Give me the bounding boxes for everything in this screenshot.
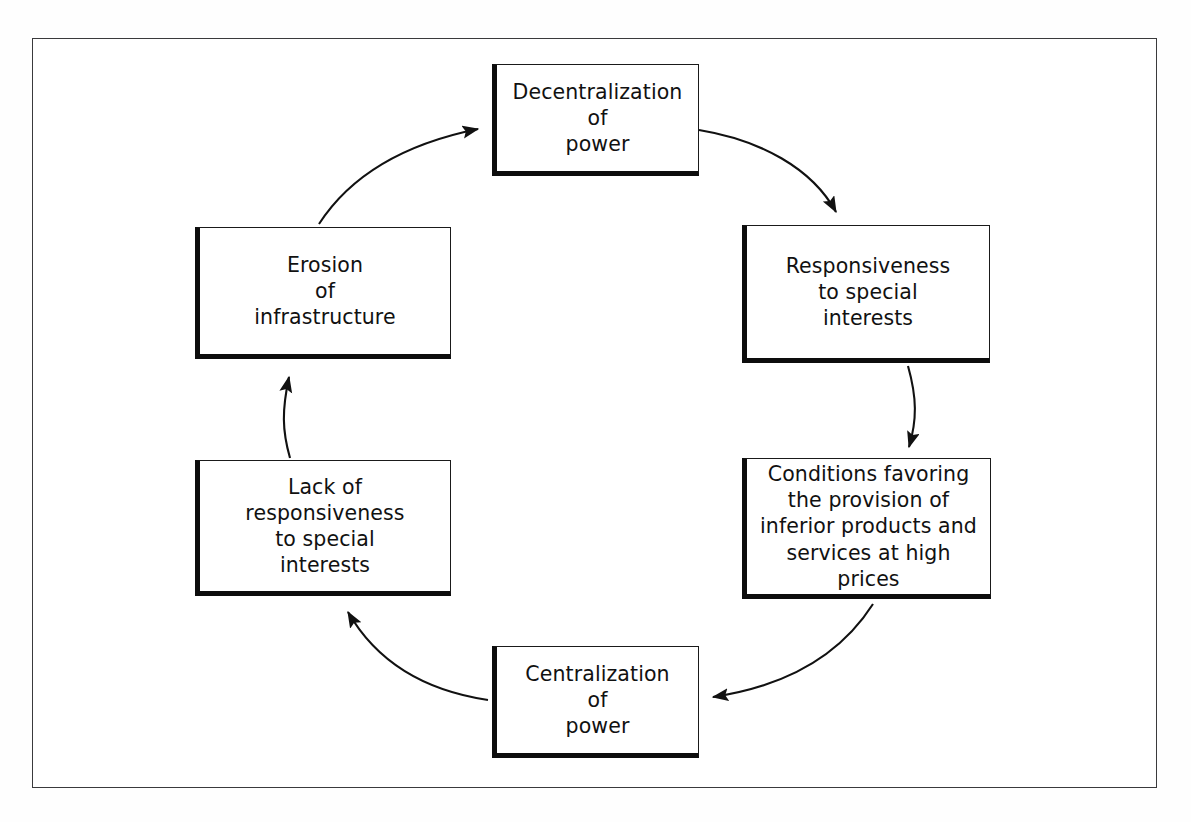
node-decentralization-of-power[interactable]: Decentralizationofpower bbox=[492, 64, 699, 176]
node-conditions-label: Conditions favoringthe provision ofinfer… bbox=[747, 461, 990, 592]
node-lack-label: Lack ofresponsivenessto specialinterests bbox=[239, 474, 410, 579]
node-decentralization-label: Decentralizationofpower bbox=[507, 79, 689, 158]
node-erosion-of-infrastructure[interactable]: Erosionofinfrastructure bbox=[195, 227, 451, 359]
node-conditions-favoring-inferior-products[interactable]: Conditions favoringthe provision ofinfer… bbox=[742, 458, 991, 599]
node-responsiveness-label: Responsivenessto specialinterests bbox=[780, 253, 957, 332]
node-responsiveness-to-special-interests[interactable]: Responsivenessto specialinterests bbox=[742, 225, 990, 363]
node-lack-of-responsiveness[interactable]: Lack ofresponsivenessto specialinterests bbox=[195, 460, 451, 596]
diagram-page: Decentralizationofpower Responsivenessto… bbox=[0, 0, 1191, 822]
node-centralization-of-power[interactable]: Centralizationofpower bbox=[492, 646, 699, 758]
node-centralization-label: Centralizationofpower bbox=[519, 661, 675, 740]
node-erosion-label: Erosionofinfrastructure bbox=[248, 252, 401, 331]
